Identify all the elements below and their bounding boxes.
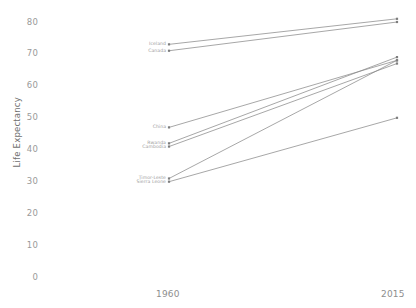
endpoint-marker (396, 21, 398, 23)
series-label: Iceland (60, 42, 166, 47)
endpoint-marker (168, 181, 170, 183)
endpoint-marker (396, 56, 398, 58)
slope-chart: Life Expectancy 01020304050607080 196020… (0, 0, 416, 308)
series-label: Sierra Leone (60, 179, 166, 184)
endpoint-marker (396, 59, 398, 61)
slope-line (169, 64, 397, 147)
endpoint-marker (396, 18, 398, 20)
endpoint-marker (168, 43, 170, 45)
slope-line (169, 57, 397, 143)
endpoint-marker (396, 117, 398, 119)
slope-line (169, 118, 397, 182)
slope-line (169, 60, 397, 178)
endpoint-marker (168, 142, 170, 144)
series-label: Cambodia (60, 144, 166, 149)
endpoint-marker (168, 50, 170, 52)
endpoint-marker (168, 126, 170, 128)
endpoint-marker (168, 177, 170, 179)
endpoint-marker (168, 145, 170, 147)
endpoint-marker (396, 62, 398, 64)
slope-line (169, 22, 397, 51)
slope-line (169, 19, 397, 45)
series-label: Canada (60, 48, 166, 53)
series-label: China (60, 125, 166, 130)
